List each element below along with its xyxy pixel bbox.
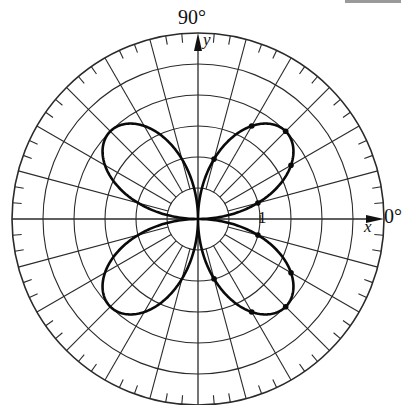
scan-artifact-bar (345, 0, 401, 3)
outer-tick (259, 385, 262, 393)
outer-tick (364, 280, 372, 283)
outer-tick (91, 67, 96, 74)
outer-tick (15, 250, 24, 252)
curve-point (283, 304, 289, 310)
angle-label-0: 0° (384, 205, 402, 228)
outer-tick (300, 67, 305, 74)
outer-tick (56, 99, 63, 105)
outer-tick (358, 140, 366, 144)
outer-tick (29, 140, 37, 144)
outer-tick (119, 50, 123, 58)
outer-tick (372, 187, 381, 189)
outer-tick (358, 294, 366, 298)
polar-plot (0, 0, 405, 405)
outer-tick (374, 234, 383, 235)
y-axis-arrow-icon (194, 33, 202, 51)
outer-tick (91, 364, 96, 371)
grid-spoke (18, 171, 168, 211)
outer-tick (119, 379, 123, 387)
y-axis-label: y (203, 30, 211, 50)
outer-tick (343, 112, 350, 117)
outer-tick (213, 395, 214, 404)
curve-point (249, 309, 255, 315)
outer-tick (46, 112, 53, 117)
grid-spoke (220, 87, 330, 197)
outer-tick (229, 36, 231, 45)
outer-tick (334, 333, 341, 339)
outer-tick (166, 393, 168, 402)
outer-tick (23, 280, 31, 283)
unit-tick-label: 1 (258, 208, 267, 228)
polar-diagram: 90° 0° y x 1 (0, 0, 405, 405)
outer-tick (182, 395, 183, 404)
outer-tick (213, 34, 214, 43)
outer-tick (312, 355, 318, 362)
outer-tick (182, 34, 183, 43)
grid-spoke (206, 39, 246, 189)
x-axis-label: x (364, 217, 372, 237)
outer-tick (364, 155, 372, 158)
curve-point (288, 163, 294, 169)
outer-tick (134, 44, 137, 52)
outer-tick (15, 187, 24, 189)
outer-tick (229, 393, 231, 402)
curve-point (283, 129, 289, 135)
grid-spoke (220, 241, 330, 351)
outer-tick (134, 385, 137, 393)
curve-point (211, 156, 217, 162)
outer-tick (56, 333, 63, 339)
grid-spoke (150, 39, 190, 189)
grid-spoke (66, 87, 176, 197)
outer-tick (374, 203, 383, 204)
curve-point (249, 123, 255, 129)
outer-tick (13, 203, 22, 204)
curve-point (211, 276, 217, 282)
outer-tick (29, 294, 37, 298)
outer-tick (166, 36, 168, 45)
curve-point (288, 270, 294, 276)
outer-tick (13, 234, 22, 235)
grid-spoke (206, 249, 246, 399)
outer-tick (300, 364, 305, 371)
grid-spoke (66, 241, 176, 351)
outer-tick (23, 155, 31, 158)
grid-spoke (150, 249, 190, 399)
outer-tick (78, 355, 84, 362)
outer-tick (78, 77, 84, 84)
outer-tick (372, 250, 381, 252)
outer-tick (273, 379, 277, 387)
grid-spoke (228, 171, 378, 211)
curve-point (255, 200, 261, 206)
grid-spoke (18, 227, 168, 267)
outer-tick (312, 77, 318, 84)
outer-tick (46, 321, 53, 326)
grid-spoke (228, 227, 378, 267)
outer-tick (259, 44, 262, 52)
angle-label-90: 90° (178, 6, 206, 29)
curve-point (255, 232, 261, 238)
outer-tick (334, 99, 341, 105)
outer-tick (273, 50, 277, 58)
outer-tick (343, 321, 350, 326)
